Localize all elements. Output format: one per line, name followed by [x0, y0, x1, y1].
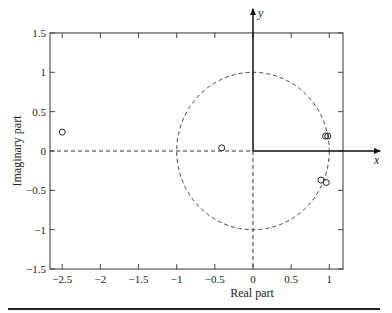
data-points: [59, 129, 331, 185]
y-tick-label: −1.5: [26, 263, 46, 275]
x-axis-arrow-label: x: [373, 153, 380, 167]
zero-marker: [323, 179, 329, 185]
y-tick-label: −0.5: [26, 184, 46, 196]
zero-marker: [219, 145, 225, 151]
dashed-guides: [50, 72, 329, 269]
y-tick-label: 1: [41, 66, 47, 78]
x-tick-label: −1.5: [129, 273, 149, 285]
x-tick-label: −1: [171, 273, 183, 285]
x-tick-label: 0: [250, 273, 256, 285]
x-tick-label: −2.5: [52, 273, 72, 285]
bottom-divider-rule: [8, 308, 380, 310]
x-tick-label: −2: [95, 273, 107, 285]
y-tick-label: 1.5: [32, 27, 46, 39]
y-axis-title: Imaginary part: [10, 115, 24, 187]
x-tick-label: 1: [327, 273, 333, 285]
y-axis-arrow-label: y: [257, 6, 264, 20]
zero-marker: [59, 129, 65, 135]
y-tick-label: −1: [34, 224, 46, 236]
y-tick-label: 0: [41, 145, 47, 157]
pole-zero-plot: −2.5−2−1.5−1−0.500.511.510.50−0.5−1−1.5 …: [0, 0, 392, 313]
x-tick-label: 0.5: [284, 273, 298, 285]
axis-ticks: −2.5−2−1.5−1−0.500.511.510.50−0.5−1−1.5: [26, 27, 343, 285]
x-tick-label: −0.5: [205, 273, 225, 285]
x-axis-title: Real part: [230, 286, 274, 300]
y-tick-label: 0.5: [32, 106, 46, 118]
origin-axes: [253, 9, 380, 151]
